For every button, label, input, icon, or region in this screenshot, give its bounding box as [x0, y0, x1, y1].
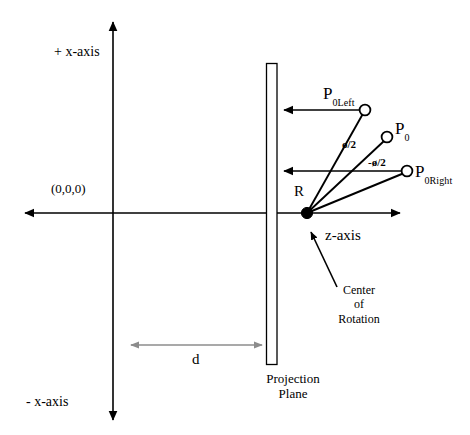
center-of-rotation-line2: of — [322, 297, 396, 311]
projection-plane-diagram: + x-axis - x-axis (0,0,0) z-axis R P0Lef… — [0, 0, 470, 435]
projection-plane-label: Projection Plane — [254, 372, 332, 402]
origin-label: (0,0,0) — [51, 182, 86, 196]
center-of-rotation-label: Center of Rotation — [322, 283, 396, 326]
angle-lower-label: -ø/2 — [368, 157, 386, 169]
p0-label: P0 — [395, 120, 410, 141]
angle-upper-label: ø/2 — [342, 139, 356, 151]
diagram-canvas — [0, 0, 470, 435]
x-axis-positive-label: + x-axis — [54, 44, 100, 59]
p0-marker — [382, 132, 393, 143]
center-of-rotation-line1: Center — [322, 283, 396, 297]
projection-plane-rect — [267, 64, 278, 365]
ray-to-p0-left — [307, 115, 363, 214]
rotation-center-dot — [301, 207, 312, 218]
projection-plane-label-line1: Projection — [254, 372, 332, 387]
p0-left-marker — [360, 105, 371, 116]
p0-right-marker — [402, 166, 413, 177]
p0-left-label: P0Left — [323, 85, 355, 106]
projection-plane-label-line2: Plane — [254, 387, 332, 402]
z-axis-label: z-axis — [325, 227, 361, 243]
x-axis-negative-label: - x-axis — [26, 394, 68, 409]
p0-right-label: P0Right — [415, 163, 452, 184]
distance-label: d — [192, 351, 200, 367]
rotation-center-label: R — [294, 183, 304, 199]
center-of-rotation-line3: Rotation — [322, 312, 396, 326]
p0-left-label-subscript: 0Left — [332, 97, 354, 108]
ray-to-p0-right — [307, 174, 403, 214]
p0-label-subscript: 0 — [404, 132, 409, 143]
ray-to-p0 — [307, 141, 384, 213]
p0-right-label-subscript: 0Right — [424, 175, 452, 186]
